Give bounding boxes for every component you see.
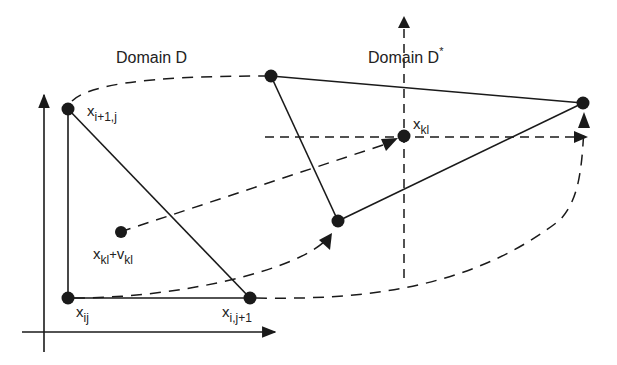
node-dstar-right [577,97,590,110]
vertex-map-arrow-icon [319,233,332,250]
node-x-ij [62,292,75,305]
map-curve-top [72,76,266,101]
label-x-kl-plus-v-kl: xkl+vkl [93,245,133,267]
point-map-arrow-icon [381,138,398,151]
node-x-kl-plus-v-kl [115,226,127,238]
domain-dstar-title: Domain D* [368,45,444,66]
node-x-i-jp1 [244,292,257,305]
node-dstar-top-left [265,70,278,83]
node-x-ip1-j [62,103,75,116]
nodes [62,70,590,305]
node-dstar-bottom [332,215,345,228]
label-x-ij: xij [76,303,89,325]
label-x-i-jp1: xi,j+1 [222,303,252,325]
vertex-map-arrow-right-icon [578,112,590,128]
label-x-ip1-j: xi+1,j [87,102,117,124]
map-curve-point [120,142,392,232]
domain-d-title: Domain D [116,49,187,66]
mapping-curves [72,76,584,298]
mapping-diagram: Domain D Domain D* xi+1,j xij xi,j+1 xkl… [0,0,617,365]
target-triangle [271,76,583,221]
dstar-right-arrow-icon [574,131,588,143]
node-x-kl [398,130,411,143]
source-triangle [68,109,250,298]
label-x-kl: xkl [413,115,429,137]
dstar-up-arrow-icon [398,16,410,28]
